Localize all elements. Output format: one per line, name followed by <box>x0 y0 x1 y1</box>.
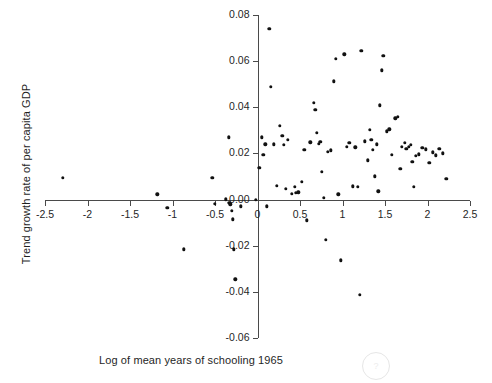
data-point <box>373 175 376 178</box>
x-tick-mark <box>88 201 89 206</box>
data-point <box>260 136 263 139</box>
data-point <box>368 128 371 131</box>
y-tick-label: -0.02 <box>206 239 250 251</box>
data-point <box>314 108 317 111</box>
y-tick-mark <box>253 292 258 293</box>
data-point <box>319 140 322 143</box>
data-point <box>61 176 64 179</box>
data-point <box>403 141 406 144</box>
data-point <box>234 277 237 280</box>
data-point <box>370 138 373 141</box>
data-point <box>269 85 272 88</box>
data-point <box>282 143 285 146</box>
data-point <box>376 190 379 193</box>
x-tick-label: 1 <box>323 208 363 220</box>
data-point <box>424 148 427 151</box>
data-point <box>400 145 403 148</box>
x-tick-mark <box>343 201 344 206</box>
data-point <box>263 142 266 145</box>
data-point <box>155 193 158 196</box>
data-point <box>359 49 362 52</box>
y-tick-mark <box>253 61 258 62</box>
data-point <box>290 192 293 195</box>
x-tick-label: -1 <box>153 208 193 220</box>
data-point <box>337 193 340 196</box>
x-tick-label: -1.5 <box>110 208 150 220</box>
data-point <box>348 141 351 144</box>
data-point <box>315 131 318 134</box>
data-point <box>332 80 335 83</box>
data-point <box>272 142 275 145</box>
data-point <box>334 57 337 60</box>
data-point <box>231 217 234 220</box>
data-point <box>358 293 361 296</box>
data-point <box>262 153 265 156</box>
page-watermark-icon: ? <box>362 352 390 380</box>
data-point <box>227 136 230 139</box>
data-point <box>284 187 287 190</box>
data-point <box>412 185 415 188</box>
data-point <box>293 185 296 188</box>
data-point <box>390 153 393 156</box>
y-axis-label: Trend growth rate of per capita GDP <box>20 44 32 304</box>
x-axis-label-text: Log of mean years of schooling 1965 <box>99 354 283 366</box>
data-point <box>351 184 354 187</box>
y-tick-mark <box>253 246 258 247</box>
data-point <box>363 139 366 142</box>
data-point <box>300 180 303 183</box>
data-point <box>303 148 306 151</box>
x-axis-label: Log of mean years of schooling 1965 <box>0 354 492 366</box>
x-tick-mark <box>470 201 471 206</box>
data-point <box>182 247 185 250</box>
data-point <box>356 185 359 188</box>
x-tick-label: -0.5 <box>195 208 235 220</box>
x-tick-label: -2.5 <box>25 208 65 220</box>
y-tick-label: -0.04 <box>206 285 250 297</box>
data-point <box>324 238 327 241</box>
data-point <box>388 128 391 131</box>
data-point <box>320 170 323 173</box>
y-tick-label: -0.06 <box>206 331 250 343</box>
data-point <box>399 167 402 170</box>
x-tick-label: 0.5 <box>280 208 320 220</box>
data-point <box>297 191 300 194</box>
data-point <box>438 147 441 150</box>
x-tick-label: 2 <box>408 208 448 220</box>
data-point <box>441 152 444 155</box>
data-point <box>345 145 348 148</box>
data-point <box>380 69 383 72</box>
data-point <box>211 176 214 179</box>
data-point <box>417 153 420 156</box>
x-tick-mark <box>173 201 174 206</box>
x-tick-mark <box>130 201 131 206</box>
data-point <box>396 115 399 118</box>
data-point <box>268 27 271 30</box>
data-point <box>275 184 278 187</box>
x-tick-mark <box>428 201 429 206</box>
data-point <box>278 124 281 127</box>
data-point <box>375 142 378 145</box>
data-point <box>354 145 357 148</box>
x-tick-label: 2.5 <box>450 208 490 220</box>
x-tick-label: -2 <box>68 208 108 220</box>
data-point <box>434 154 437 157</box>
y-tick-label: 0.04 <box>206 100 250 112</box>
data-point <box>342 53 345 56</box>
data-point <box>339 259 342 262</box>
scatter-chart: Trend growth rate of per capita GDP Log … <box>0 0 492 383</box>
data-point <box>280 134 283 137</box>
x-tick-mark <box>258 201 259 206</box>
x-tick-mark <box>300 201 301 206</box>
y-tick-mark <box>253 107 258 108</box>
data-point <box>382 54 385 57</box>
y-tick-label: 0.02 <box>206 146 250 158</box>
y-tick-mark <box>253 338 258 339</box>
x-tick-mark <box>385 201 386 206</box>
y-axis-line <box>258 15 259 338</box>
data-point <box>229 202 232 205</box>
x-tick-label: 1.5 <box>365 208 405 220</box>
data-point <box>329 149 332 152</box>
data-point <box>213 202 216 205</box>
data-point <box>366 159 369 162</box>
data-point <box>378 104 381 107</box>
